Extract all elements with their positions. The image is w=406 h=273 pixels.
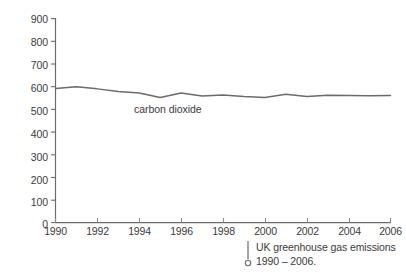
x-tick-label-1996: 1996 <box>165 226 199 237</box>
x-tick-label-1992: 1992 <box>81 226 115 237</box>
figure-caption-line-2: 1990 – 2006. <box>256 254 396 268</box>
x-tick-label-1990: 1990 <box>39 226 73 237</box>
figure-caption: UK greenhouse gas emissions 1990 – 2006. <box>256 240 396 268</box>
y-axis-ticks <box>51 19 55 223</box>
caption-pin-icon <box>244 239 256 269</box>
series-annotation-carbon-dioxide: carbon dioxide <box>134 103 202 115</box>
x-tick-label-2004: 2004 <box>333 226 367 237</box>
x-tick-label-1998: 1998 <box>207 226 241 237</box>
x-tick-label-1994: 1994 <box>123 226 157 237</box>
figure-caption-line-1: UK greenhouse gas emissions <box>256 240 396 254</box>
x-tick-label-2000: 2000 <box>249 226 283 237</box>
data-line-carbon-dioxide <box>56 87 391 98</box>
x-tick-label-2002: 2002 <box>291 226 325 237</box>
x-tick-label-2006: 2006 <box>374 226 406 237</box>
chart-figure: million tonnes CO2 900 800 700 600 500 4… <box>0 0 406 273</box>
